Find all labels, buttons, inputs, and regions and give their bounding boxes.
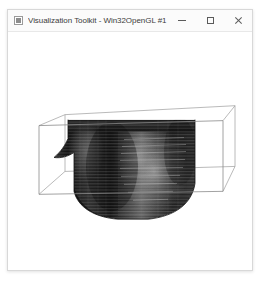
application-window: Visualization Toolkit - Win32OpenGL #1 — [7, 9, 253, 271]
screen-root: Visualization Toolkit - Win32OpenGL #1 — [0, 0, 261, 281]
maximize-button[interactable] — [196, 10, 224, 32]
maximize-icon — [207, 17, 214, 24]
minimize-button[interactable] — [168, 10, 196, 32]
close-icon — [234, 17, 242, 25]
window-title: Visualization Toolkit - Win32OpenGL #1 — [28, 16, 168, 26]
vtk-render-area[interactable]: Volume rendered dataset inside wireframe… — [8, 32, 252, 270]
app-window-icon — [14, 16, 23, 25]
minimize-icon — [178, 20, 186, 21]
close-button[interactable] — [224, 10, 252, 32]
title-bar[interactable]: Visualization Toolkit - Win32OpenGL #1 — [8, 10, 252, 32]
window-controls — [168, 10, 252, 32]
vtk-render-canvas[interactable] — [8, 32, 252, 270]
